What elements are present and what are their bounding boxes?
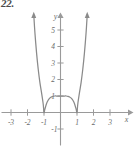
y-tick-label-2: 2	[51, 75, 55, 84]
x-tick-label-neg1: -1	[41, 118, 47, 127]
x-tick-label-neg2: -2	[24, 118, 30, 127]
x-tick-label-neg3: -3	[8, 118, 14, 127]
x-axis-arrowhead	[128, 109, 134, 115]
y-tick-label-3: 3	[50, 59, 55, 68]
curve-right-arrowhead	[85, 12, 90, 18]
y-axis-arrowhead	[57, 13, 63, 19]
x-axis-name-label: x	[124, 115, 129, 124]
figure-panel: 22.	[0, 0, 135, 150]
y-tick-label-neg1: -1	[51, 125, 57, 134]
curve-left-arrowhead	[31, 12, 36, 18]
x-tick-label-1: 1	[75, 118, 79, 127]
x-axis	[2, 109, 134, 115]
graph-plot: -3 -2 -1 1 2 3 5 4 3 2 1 -1 x y	[0, 0, 135, 150]
y-tick-label-4: 4	[51, 42, 55, 51]
y-axis-name-label: y	[53, 12, 58, 21]
x-tick-label-2: 2	[92, 118, 96, 127]
y-tick-labels: 5 4 3 2 1 -1	[50, 26, 57, 134]
y-tick-label-5: 5	[51, 26, 55, 35]
x-tick-label-3: 3	[107, 118, 112, 127]
